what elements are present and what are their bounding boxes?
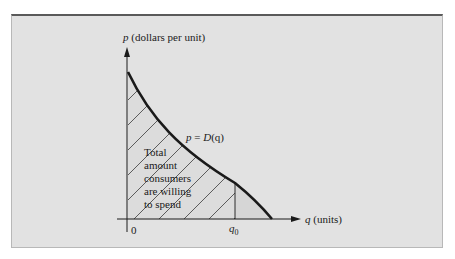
curve-label: p = D(q): [185, 131, 224, 144]
x-axis-arrow-icon: [291, 216, 301, 222]
q0-label: q0: [229, 222, 239, 237]
svg-text:Total: Total: [144, 146, 166, 158]
x-axis-label: q (units): [305, 213, 342, 226]
y-axis-label: p (dollars per unit): [122, 31, 206, 44]
svg-text:to spend: to spend: [144, 198, 181, 210]
svg-text:are willing: are willing: [144, 185, 192, 197]
y-axis-arrow-icon: [124, 47, 130, 57]
demand-chart: p (dollars per unit) q (units) 0 q0 p = …: [0, 0, 455, 259]
origin-label: 0: [131, 224, 137, 236]
svg-text:consumers: consumers: [144, 172, 191, 184]
svg-text:amount: amount: [144, 159, 177, 171]
